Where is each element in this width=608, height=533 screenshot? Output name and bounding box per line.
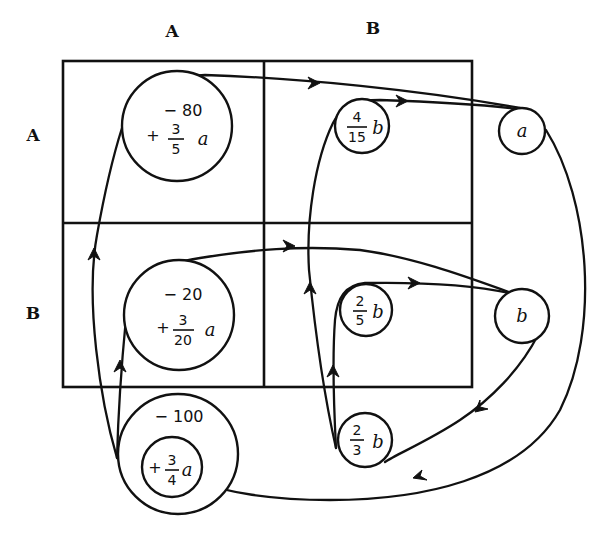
node-total-a: − 100 + 3 4 a: [118, 394, 238, 514]
arrow-down-left-icon: [475, 400, 488, 412]
cell-bb-numerator: 2: [356, 293, 365, 309]
total-a-variable: a: [182, 459, 193, 480]
cell-aa-denominator: 5: [172, 141, 181, 157]
node-a-variable: a: [517, 120, 528, 141]
row-header-a: A: [25, 125, 40, 145]
total-b-denominator: 3: [353, 442, 362, 458]
row-header-b: B: [26, 303, 40, 323]
node-cell-bb: 2 5 b: [340, 284, 392, 336]
column-header-a: A: [164, 21, 179, 41]
node-b-variable: b: [516, 305, 528, 326]
flow-total-b-to-ab: [308, 100, 525, 448]
node-b: b: [495, 289, 549, 343]
cell-bb-denominator: 5: [356, 312, 365, 328]
arrow-down-left-icon: [413, 470, 427, 480]
arrow-right-icon: [283, 240, 295, 252]
node-cell-aa: − 80 + 3 5 a: [122, 71, 232, 181]
flow-diagram: A B A B: [0, 0, 608, 533]
cell-ba-denominator: 20: [174, 332, 192, 348]
arrow-up-icon: [114, 360, 126, 372]
cell-ab-denominator: 15: [348, 129, 366, 145]
arrow-up-icon: [304, 282, 316, 294]
cell-ba-numerator: 3: [179, 312, 188, 328]
column-header-b: B: [366, 18, 380, 38]
cell-aa-constant: − 80: [164, 101, 203, 120]
cell-ba-variable: a: [205, 319, 216, 340]
cell-ab-numerator: 4: [353, 109, 362, 125]
cell-bb-variable: b: [372, 301, 384, 322]
cell-aa-sign: +: [146, 126, 159, 145]
node-cell-ab: 4 15 b: [335, 99, 389, 153]
flow-b-to-total-b: [385, 335, 538, 462]
total-a-denominator: 4: [168, 472, 177, 488]
total-a-numerator: 3: [168, 452, 177, 468]
total-a-constant: − 100: [154, 407, 203, 426]
cell-aa-numerator: 3: [172, 121, 181, 137]
cell-aa-variable: a: [198, 128, 209, 149]
cell-ab-variable: b: [372, 117, 384, 138]
cell-ba-constant: − 20: [164, 285, 203, 304]
node-cell-ba: − 20 + 3 20 a: [124, 260, 234, 370]
total-b-variable: b: [372, 431, 384, 452]
node-a: a: [499, 108, 545, 154]
circle-cell-bb: [340, 284, 392, 336]
total-a-sign: +: [148, 458, 161, 477]
arrow-right-icon: [308, 77, 320, 89]
circle-total-b: [338, 413, 392, 467]
cell-ba-sign: +: [156, 318, 169, 337]
total-b-numerator: 2: [353, 422, 362, 438]
node-total-b: 2 3 b: [338, 413, 392, 467]
